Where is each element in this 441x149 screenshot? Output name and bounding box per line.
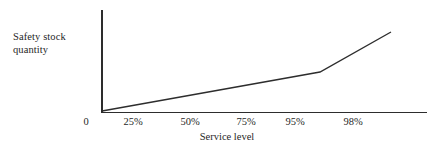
x-tick-label-0: 0 bbox=[83, 115, 88, 128]
x-tick-label-4: 95% bbox=[285, 115, 304, 128]
x-tick-label-2: 50% bbox=[180, 115, 199, 128]
series-polyline bbox=[102, 32, 391, 111]
x-tick-label-5: 98% bbox=[343, 115, 362, 128]
safety-stock-service-level-chart: Safety stock quantity 0 25% 50% 75% 95% … bbox=[0, 0, 441, 149]
data-series-line bbox=[0, 0, 441, 149]
x-axis-title: Service level bbox=[200, 130, 255, 143]
x-tick-label-1: 25% bbox=[123, 115, 142, 128]
x-tick-label-3: 75% bbox=[236, 115, 255, 128]
plot-area: 0 25% 50% 75% 95% 98% Service level bbox=[0, 0, 441, 149]
